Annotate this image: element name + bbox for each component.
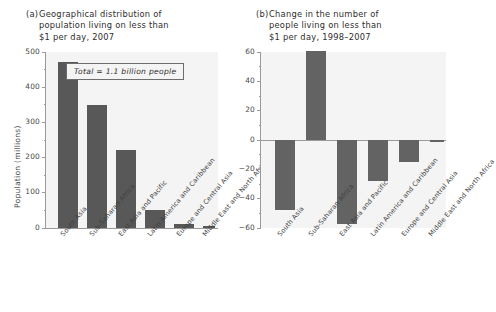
panel-a-title-text: Geographical distribution of population …: [39, 9, 226, 43]
panel-b-tag: (b): [256, 9, 269, 20]
panel-b-ytick-label-minus60: −60: [239, 223, 255, 232]
panel-a-total-annotation: Total = 1.1 billion people: [66, 63, 184, 80]
panel-b-bar-latin-america-and-caribbean: [368, 140, 388, 181]
panel-a-title-line-2: population living on less than: [39, 20, 169, 30]
panel-b-bar-south-asia: [275, 140, 295, 210]
panel-b-title-line-3: $1 per day, 1998–2007: [269, 32, 371, 42]
panel-b-bar-middle-east-and-north-africa: [430, 140, 444, 142]
panel-b-ytick-label-40: 40: [245, 76, 255, 85]
panel-a-ytick-label-0: 0: [35, 223, 40, 232]
panel-a-tag: (a): [26, 9, 39, 20]
panel-a-title-line-1: Geographical distribution of: [39, 9, 162, 19]
panel-a-ytick-label-500: 500: [25, 47, 40, 56]
chart-panel-a: (a) Geographical distribution of populat…: [0, 0, 230, 312]
panel-b-ytick-label-minus40: −40: [239, 193, 255, 202]
panel-b-ytick-label-0: 0: [250, 135, 255, 144]
panel-a-title-line-3: $1 per day, 2007: [39, 32, 114, 42]
panel-a-title: (a) Geographical distribution of populat…: [26, 9, 226, 43]
panel-b-title-text: Change in the number of people living on…: [269, 9, 456, 43]
panel-b-ytick-label-20: 20: [245, 105, 255, 114]
panel-a-ytick-label-200: 200: [25, 152, 40, 161]
panel-b-bars: [261, 52, 446, 228]
panel-a-y-axis-label: Population (millions): [13, 125, 22, 208]
chart-panel-b: (b) Change in the number of people livin…: [230, 0, 460, 312]
panel-b-plot-area: 60 40 20 0 −20 −40 −60: [260, 52, 446, 228]
panel-b-ytick-label-60: 60: [245, 47, 255, 56]
panel-b-title: (b) Change in the number of people livin…: [256, 9, 456, 43]
panel-a-ytick-label-300: 300: [25, 117, 40, 126]
panel-a-ytick-label-100: 100: [25, 187, 40, 196]
panel-b-bar-sub-saharan-africa: [306, 51, 326, 141]
panel-a-bar-south-asia: [58, 62, 78, 228]
panel-b-ytick-label-minus20: −20: [239, 164, 255, 173]
panel-a-ytick-label-400: 400: [25, 82, 40, 91]
panel-b-title-line-1: Change in the number of: [269, 9, 379, 19]
panel-b-bar-europe-and-central-asia: [399, 140, 419, 162]
panel-b-bar-east-asia-and-pacific: [337, 140, 357, 224]
panel-a-bar-sub-saharan-africa: [87, 105, 107, 228]
panel-b-title-line-2: people living on less than: [269, 20, 382, 30]
